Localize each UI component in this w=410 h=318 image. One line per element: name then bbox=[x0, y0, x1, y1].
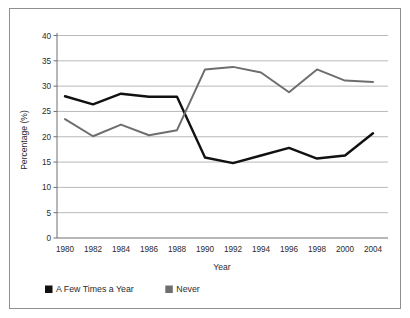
gridlines bbox=[57, 36, 388, 239]
y-axis-title: Percentage (%) bbox=[19, 110, 29, 170]
x-tick-label: 1986 bbox=[140, 245, 159, 254]
plot-area: 0510152025303540 19801982198419861988199… bbox=[0, 0, 410, 318]
y-tick-label: 0 bbox=[46, 234, 51, 243]
chart-legend: A Few Times a YearNever bbox=[45, 284, 200, 294]
data-series-layer bbox=[65, 67, 373, 163]
legend-swatch-2 bbox=[165, 286, 173, 294]
x-tick-label: 1996 bbox=[280, 245, 299, 254]
x-tick-label: 1988 bbox=[168, 245, 187, 254]
y-tick-label: 20 bbox=[42, 133, 52, 142]
legend-swatch-1 bbox=[45, 286, 53, 294]
x-axis-title: Year bbox=[213, 262, 231, 272]
x-tick-label: 1998 bbox=[308, 245, 327, 254]
x-tick-label: 1994 bbox=[252, 245, 271, 254]
x-tick-label: 1990 bbox=[196, 245, 215, 254]
y-tick-label: 35 bbox=[42, 57, 52, 66]
y-tick-marks bbox=[54, 36, 58, 239]
y-tick-label: 30 bbox=[42, 82, 52, 91]
x-tick-label: 2000 bbox=[336, 245, 355, 254]
x-tick-label: 1980 bbox=[56, 245, 75, 254]
legend-label-2: Never bbox=[176, 284, 200, 294]
x-tick-label: 1982 bbox=[84, 245, 103, 254]
y-tick-label: 40 bbox=[42, 32, 52, 41]
y-tick-label: 10 bbox=[42, 183, 52, 192]
x-tick-label: 1984 bbox=[112, 245, 131, 254]
chart-figure: 0510152025303540 19801982198419861988199… bbox=[0, 0, 410, 318]
x-tick-label: 2004 bbox=[364, 245, 383, 254]
line-chart-svg: 0510152025303540 19801982198419861988199… bbox=[0, 0, 410, 318]
y-tick-labels: 0510152025303540 bbox=[42, 32, 52, 244]
x-tick-label: 1992 bbox=[224, 245, 243, 254]
y-tick-label: 25 bbox=[42, 107, 52, 116]
legend-label-1: A Few Times a Year bbox=[56, 284, 134, 294]
y-tick-label: 15 bbox=[42, 158, 52, 167]
series-line-2 bbox=[65, 67, 373, 136]
y-tick-label: 5 bbox=[46, 209, 51, 218]
x-tick-labels: 1980198219841986198819901992199419961998… bbox=[56, 245, 383, 254]
